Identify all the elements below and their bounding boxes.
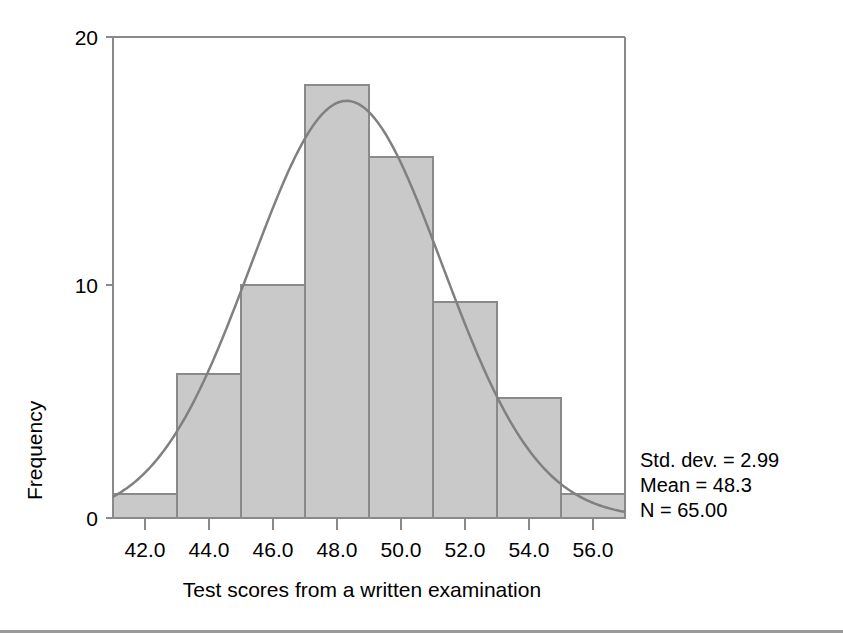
stats-annotation: Std. dev. = 2.99 Mean = 48.3 N = 65.00 [640, 449, 779, 521]
histogram-figure: 20 10 0 42.0 44.0 4 [0, 0, 843, 633]
histogram-plot: 20 10 0 42.0 44.0 4 [0, 0, 843, 633]
bar-56 [561, 494, 625, 518]
y-tick-label-20: 20 [75, 26, 98, 49]
bar-44 [177, 374, 241, 518]
x-axis-ticks [145, 518, 593, 530]
stats-std-dev: Std. dev. = 2.99 [640, 449, 779, 471]
bar-52 [433, 302, 497, 518]
x-tick-label-52: 52.0 [445, 538, 486, 561]
y-tick-label-0: 0 [86, 507, 98, 530]
y-tick-label-10: 10 [75, 274, 98, 297]
y-axis-title: Frequency [23, 400, 46, 500]
x-axis-title: Test scores from a written examination [183, 578, 541, 601]
bar-50 [369, 157, 433, 518]
y-axis-ticks [106, 37, 113, 518]
x-tick-label-46: 46.0 [253, 538, 294, 561]
x-tick-label-56: 56.0 [573, 538, 614, 561]
stats-mean: Mean = 48.3 [640, 474, 752, 496]
x-tick-label-54: 54.0 [509, 538, 550, 561]
x-tick-label-50: 50.0 [381, 538, 422, 561]
bar-46 [241, 285, 305, 518]
x-tick-label-44: 44.0 [189, 538, 230, 561]
bar-42 [113, 494, 177, 518]
x-tick-label-42: 42.0 [125, 538, 166, 561]
x-tick-label-48: 48.0 [317, 538, 358, 561]
bar-48 [305, 85, 369, 518]
stats-n: N = 65.00 [640, 499, 727, 521]
histogram-bars [113, 85, 625, 518]
